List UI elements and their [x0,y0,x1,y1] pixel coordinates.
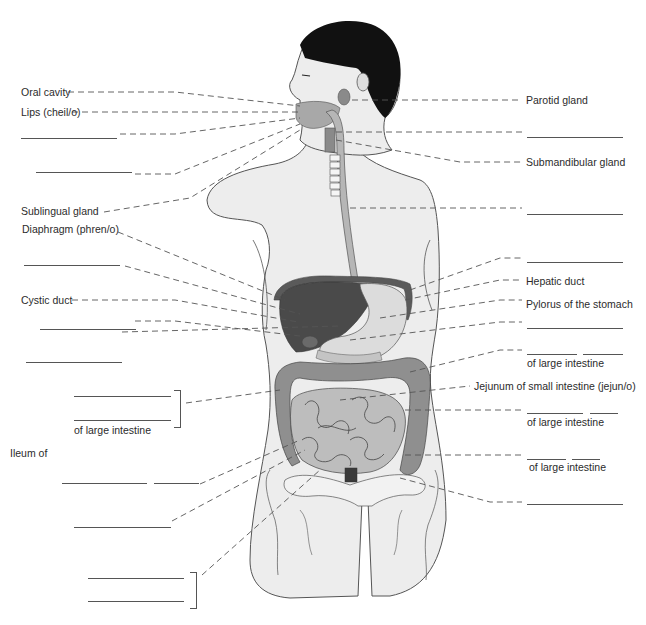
blank-answer-line[interactable] [88,578,184,579]
label-pylorus: Pylorus of the stomach [526,298,633,310]
blank-answer-line[interactable] [24,265,120,266]
blank-answer-line[interactable] [36,172,132,173]
blank-answer-line[interactable] [527,328,623,329]
blank-answer-line[interactable] [154,483,199,484]
label-lips: Lips (cheil/o) [21,106,81,118]
rectum [345,468,357,482]
label-ileum: Ileum of [10,447,47,459]
blank-answer-line[interactable] [62,483,147,484]
bracket [190,572,197,609]
blank-answer-line[interactable] [583,354,623,355]
blank-answer-line[interactable] [572,459,600,460]
blank-answer-line[interactable] [527,504,623,505]
label-oral-cavity: Oral cavity [21,86,71,98]
label-cystic-duct: Cystic duct [21,294,72,306]
blank-answer-line[interactable] [40,329,136,330]
label-large-intestine-r2: of large intestine [527,416,604,428]
label-large-intestine-r1: of large intestine [527,357,604,369]
label-sublingual-gland: Sublingual gland [21,205,99,217]
label-large-intestine-r3: of large intestine [529,461,606,473]
blank-answer-line[interactable] [74,420,171,421]
blank-answer-line[interactable] [527,413,583,414]
blank-answer-line[interactable] [527,262,623,263]
label-large-intestine-left: of large intestine [74,424,151,436]
blank-answer-line[interactable] [527,137,623,138]
label-parotid-gland: Parotid gland [526,94,588,106]
blank-answer-line[interactable] [26,362,122,363]
bracket [174,390,181,428]
blank-answer-line[interactable] [527,459,566,460]
parotid-gland-shape [338,89,350,105]
faint-header-artifact [6,2,8,9]
small-intestine [290,388,405,473]
label-submandibular-gland: Submandibular gland [526,156,625,168]
blank-answer-line[interactable] [590,413,618,414]
blank-answer-line[interactable] [88,601,184,602]
label-diaphragm: Diaphragm (phren/o) [22,223,119,235]
blank-answer-line[interactable] [74,396,171,397]
blank-answer-line[interactable] [527,214,623,215]
blank-answer-line[interactable] [74,527,171,528]
blank-answer-line[interactable] [527,354,577,355]
blank-answer-line[interactable] [21,138,117,139]
label-jejunum: Jejunum of small intestine (jejun/o) [474,380,636,392]
label-hepatic-duct: Hepatic duct [526,275,584,287]
